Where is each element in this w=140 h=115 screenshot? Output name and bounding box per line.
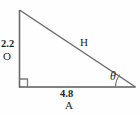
- angle-arc: [116, 75, 120, 87]
- angle-theta-label: θ: [110, 71, 116, 82]
- opposite-side-name-label: O: [3, 51, 11, 62]
- hypotenuse-name-label: H: [80, 37, 88, 48]
- adjacent-side-name-label: A: [65, 100, 73, 111]
- opposite-length-label: 2.2: [1, 38, 14, 49]
- right-angle-marker: [20, 79, 28, 87]
- adjacent-length-label: 4.8: [60, 88, 73, 99]
- hypotenuse-line: [20, 10, 136, 87]
- trigonometry-figure: 2.2 O 4.8 A H θ: [0, 0, 140, 115]
